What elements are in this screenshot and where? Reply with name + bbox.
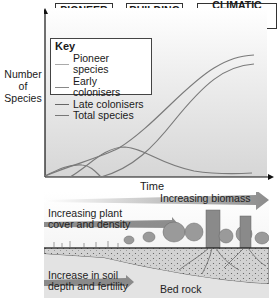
- legend-item-early: Early colonisers: [55, 76, 147, 99]
- legend-swatch-early: [55, 87, 69, 88]
- legend-title: Key: [55, 41, 147, 53]
- legend-item-pioneer: Pioneer species: [55, 53, 147, 76]
- plant-cover-label: Increasing plant cover and density: [48, 208, 130, 230]
- biomass-label: Increasing biomass: [160, 193, 250, 204]
- bedrock-label: Bed rock: [160, 284, 201, 295]
- legend-item-total: Total species: [55, 110, 147, 122]
- y-axis-label: Number of Species: [2, 68, 44, 104]
- legend-swatch-pioneer: [55, 64, 69, 65]
- legend: Key Pioneer species Early colonisers Lat…: [50, 38, 152, 95]
- legend-swatch-late: [55, 104, 69, 105]
- x-axis-label: Time: [140, 180, 164, 192]
- legend-swatch-total: [55, 115, 69, 116]
- soil-depth-label: Increase in soil depth and fertility: [48, 270, 128, 292]
